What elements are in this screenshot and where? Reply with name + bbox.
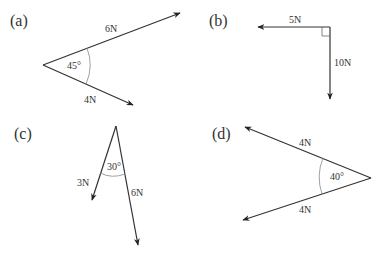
force-label-4n: 4N [84,94,96,105]
diagram-d: (d) 40° 4N 4N [212,125,371,220]
diagram-c: (c) 30° 3N 6N [14,125,143,245]
force-label-4n-upper: 4N [299,137,311,148]
force-label-10n: 10N [334,57,351,68]
angle-arc [319,158,323,194]
diagram-b: (b) 5N 10N [209,12,351,99]
angle-label: 30° [107,161,121,172]
force-label-5n: 5N [289,14,301,25]
right-angle-marker [322,27,330,36]
vector-4n-upper [245,127,371,178]
panel-label-a: (a) [10,12,28,30]
force-label-4n-lower: 4N [299,204,311,215]
angle-arc [100,173,125,176]
force-label-3n: 3N [77,177,89,188]
diagram-a: (a) 45° 6N 4N [10,12,180,105]
vector-6n [116,126,138,245]
force-label-6n: 6N [105,23,117,34]
angle-label: 40° [330,171,344,182]
vector-6n [43,13,180,65]
force-label-6n: 6N [131,187,143,198]
panel-label-c: (c) [14,125,32,143]
force-diagrams: (a) 45° 6N 4N (b) 5N 10N (c) 30° 3N 6N (… [0,0,385,253]
angle-label: 45° [67,60,81,71]
panel-label-d: (d) [212,125,231,143]
panel-label-b: (b) [209,12,228,30]
angle-arc [86,48,90,84]
